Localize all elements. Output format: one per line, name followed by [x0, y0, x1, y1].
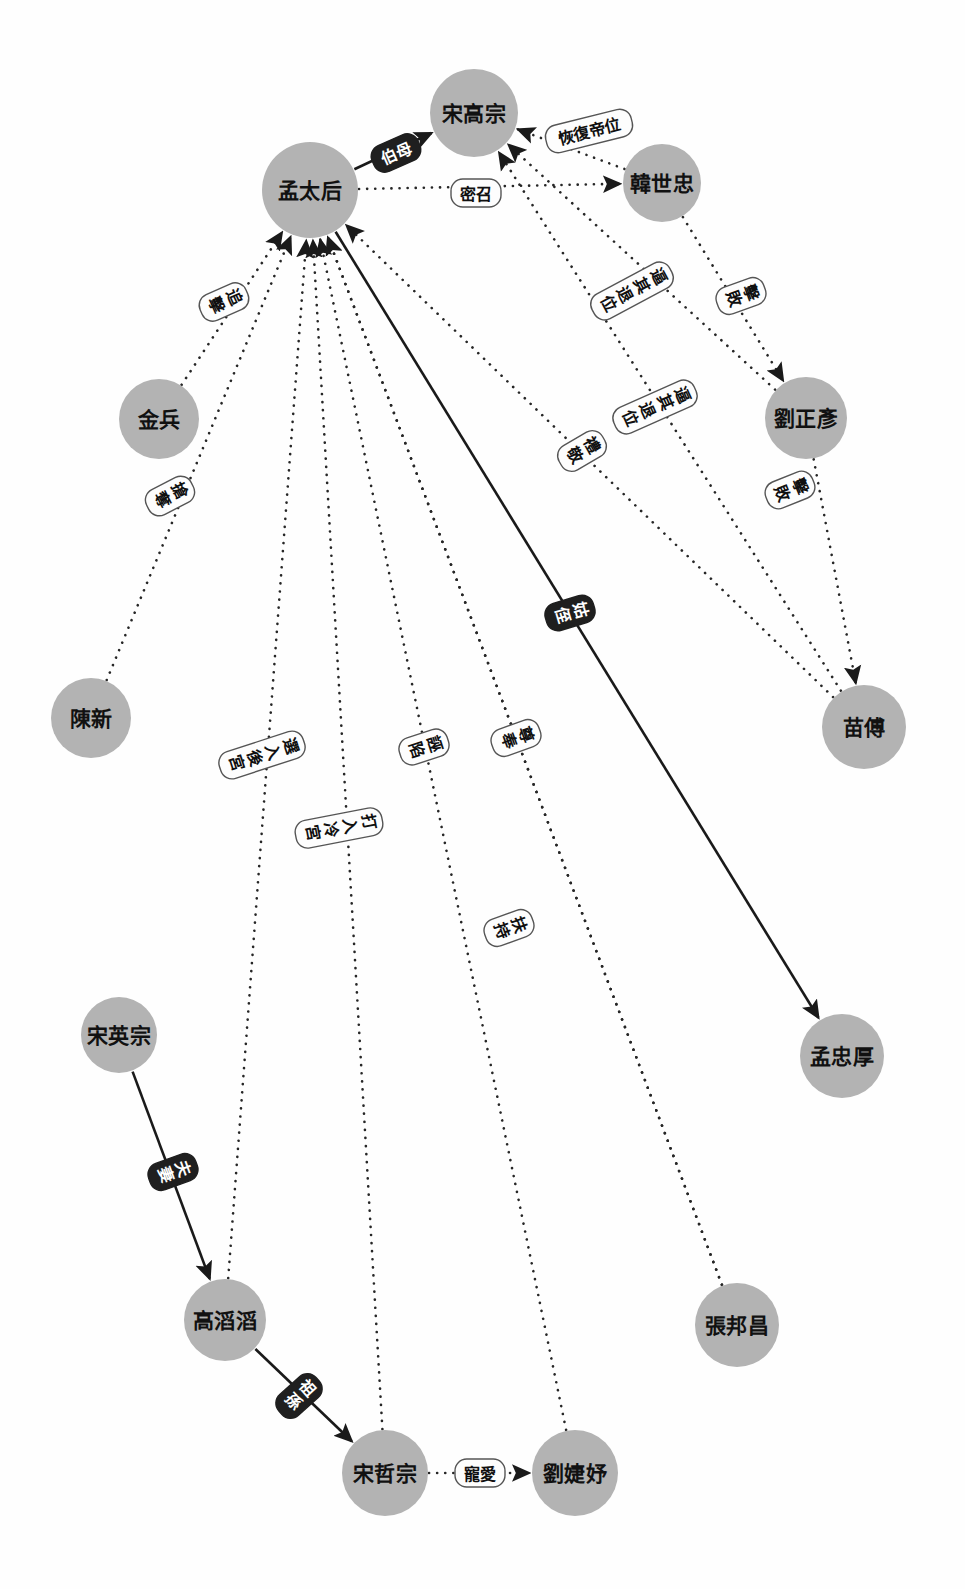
edge-label-e3: 恢復帝位: [543, 107, 635, 155]
node-label-songying: 宋英宗: [87, 1024, 152, 1048]
node-chenxin[interactable]: 陳新: [51, 678, 131, 758]
edge-label-e19: 寵愛: [455, 1459, 505, 1487]
relationship-network-diagram: 孟太后宋高宗韓世忠劉正彥苗傅金兵陳新孟忠厚宋英宗高滔滔張邦昌宋哲宗劉婕妤 伯母密…: [0, 0, 965, 1589]
edge-label-e5: 擊敗: [762, 468, 819, 513]
node-jinbing[interactable]: 金兵: [119, 379, 199, 459]
node-label-zhangbang: 張邦昌: [705, 1314, 770, 1338]
edge-label-e7: 逼其退位: [587, 258, 678, 324]
node-label-gaozong: 宋高宗: [442, 102, 507, 126]
node-gaotaotao[interactable]: 高滔滔: [184, 1279, 266, 1361]
edge-label-e11: 選入後宮: [216, 728, 308, 782]
node-label-gaotaotao: 高滔滔: [193, 1309, 258, 1333]
edge-label-e8: 禮敬: [553, 426, 610, 475]
node-label-liujieyu: 劉婕妤: [543, 1462, 608, 1486]
node-label-miaofu: 苗傅: [843, 716, 886, 740]
edge-label-e13: 誣陷: [396, 726, 452, 768]
node-menghou[interactable]: 孟太后: [262, 142, 358, 238]
edge-label-e18: 祖孫: [271, 1369, 327, 1423]
node-label-chenxin: 陳新: [70, 707, 113, 731]
node-zhangbang[interactable]: 張邦昌: [695, 1283, 779, 1367]
node-hanshi[interactable]: 韓世忠: [623, 144, 701, 222]
node-label-liuzheng: 劉正彥: [774, 407, 839, 431]
edge-label-e6: 逼其退位: [609, 376, 701, 437]
edge-e10: [107, 237, 291, 680]
edge-e5: [814, 459, 856, 683]
node-liujieyu[interactable]: 劉婕妤: [532, 1430, 618, 1516]
node-layer: 孟太后宋高宗韓世忠劉正彥苗傅金兵陳新孟忠厚宋英宗高滔滔張邦昌宋哲宗劉婕妤: [51, 69, 906, 1516]
edge-label-e9: 追擊: [195, 279, 252, 325]
edge-label-e1: 伯母: [367, 130, 424, 176]
node-label-hanshi: 韓世忠: [630, 172, 695, 196]
node-gaozong[interactable]: 宋高宗: [430, 69, 518, 157]
node-liuzheng[interactable]: 劉正彥: [765, 377, 847, 459]
edge-label-e17: 夫妻: [145, 1150, 202, 1193]
edge-layer: [107, 129, 856, 1473]
edge-label-e10: 搶奪: [141, 472, 198, 520]
edge-label-text: 密召: [459, 185, 492, 204]
edge-label-e12: 打入冷宮: [293, 806, 385, 850]
edge-label-e4: 擊敗: [713, 274, 770, 317]
edge-label-e15: 扶持: [481, 906, 538, 949]
node-label-songzhe: 宋哲宗: [353, 1462, 418, 1486]
node-mengzhong[interactable]: 孟忠厚: [800, 1014, 884, 1098]
node-songzhe[interactable]: 宋哲宗: [342, 1430, 428, 1516]
node-label-jinbing: 金兵: [137, 408, 181, 432]
node-miaofu[interactable]: 苗傅: [822, 685, 906, 769]
edge-label-e2: 密召: [451, 179, 501, 207]
node-label-menghou: 孟太后: [278, 179, 343, 203]
node-songying[interactable]: 宋英宗: [81, 997, 157, 1073]
edge-label-text: 寵愛: [464, 1465, 496, 1484]
graph-canvas: 孟太后宋高宗韓世忠劉正彥苗傅金兵陳新孟忠厚宋英宗高滔滔張邦昌宋哲宗劉婕妤 伯母密…: [0, 0, 965, 1589]
node-label-mengzhong: 孟忠厚: [810, 1045, 875, 1069]
edge-label-e14: 尊奉: [488, 716, 545, 759]
edge-label-e16: 姑侄: [542, 592, 598, 633]
edge-label-layer: 伯母密召恢復帝位擊敗擊敗逼其退位逼其退位禮敬追擊搶奪選入後宮打入冷宮誣陷尊奉扶持…: [141, 107, 818, 1487]
